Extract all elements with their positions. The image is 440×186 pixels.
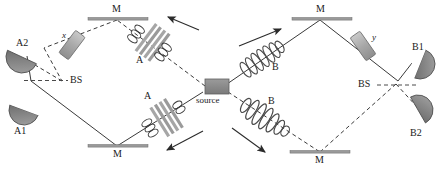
label-mirror-top-left: M xyxy=(112,4,121,14)
label-plate-y: y xyxy=(372,33,376,42)
detector-a2 xyxy=(1,50,37,78)
label-bs-right: BS xyxy=(358,79,370,89)
label-packet-b-top: B xyxy=(272,62,279,72)
label-crystal-a-bottom: A xyxy=(144,91,151,101)
label-source: source xyxy=(196,96,220,105)
beam-path-upper-left xyxy=(30,20,205,86)
label-crystal-a-top: A xyxy=(136,55,143,65)
detector-b1 xyxy=(407,47,440,83)
crystal-a-bottom xyxy=(141,98,187,138)
detector-b2 xyxy=(411,90,439,123)
label-detector-a2: A2 xyxy=(16,38,28,48)
wavepacket-b-bottom xyxy=(236,93,295,143)
mirror-bottom-right xyxy=(290,151,350,154)
source-block xyxy=(205,79,229,94)
mirror-top-right xyxy=(292,18,352,21)
mirror-top-left xyxy=(88,18,148,21)
beam-path-upper-right xyxy=(227,20,412,84)
label-packet-b-bottom: B xyxy=(268,96,275,106)
arrow-upper-left xyxy=(168,17,199,30)
label-bs-left: BS xyxy=(70,75,82,85)
label-detector-a1: A1 xyxy=(14,126,26,136)
mirror-bottom-left xyxy=(88,145,148,148)
crystal-a-top xyxy=(126,23,173,62)
label-detector-b1: B1 xyxy=(412,42,424,52)
label-detector-b2: B2 xyxy=(410,128,422,138)
diagram-canvas xyxy=(0,0,440,186)
arrow-lower-right xyxy=(232,128,265,152)
label-mirror-top-right: M xyxy=(316,4,325,14)
label-mirror-bottom-left: M xyxy=(113,149,122,159)
label-plate-x: x xyxy=(62,31,66,40)
beam-path-lower-left xyxy=(27,56,203,146)
interferometer-figure: M M M M A2 A1 B1 B2 BS BS source A A B B… xyxy=(0,0,440,186)
beam-path-lower-right xyxy=(228,84,418,152)
label-mirror-bottom-right: M xyxy=(315,155,324,165)
